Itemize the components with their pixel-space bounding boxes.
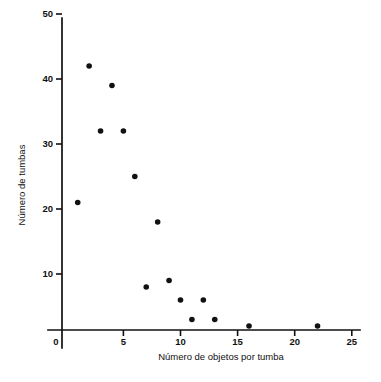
data-point — [98, 128, 104, 134]
data-point — [143, 284, 149, 290]
y-axis: 1020304050 — [42, 8, 62, 348]
data-point — [189, 317, 195, 323]
x-axis: 0510152025 — [48, 330, 360, 347]
x-tick-label: 25 — [347, 336, 358, 347]
data-point — [121, 128, 127, 134]
y-tick-label: 20 — [42, 203, 53, 214]
data-point — [178, 297, 184, 303]
data-point — [212, 317, 218, 323]
y-tick-label: 30 — [42, 138, 53, 149]
data-point — [75, 200, 81, 206]
data-point — [132, 174, 138, 180]
x-tick-label: 15 — [232, 336, 243, 347]
x-tick-label: 20 — [289, 336, 300, 347]
y-tick-label: 50 — [42, 8, 53, 19]
y-tick-label: 10 — [42, 268, 53, 279]
x-axis-title: Número de objetos por tumba — [158, 351, 284, 362]
x-tick-label: 10 — [175, 336, 186, 347]
plot-canvas: 1020304050 0510152025 Número de objetos … — [0, 0, 381, 382]
y-tick-label: 40 — [42, 73, 53, 84]
data-point — [155, 219, 161, 225]
y-axis-title: Número de tumbas — [16, 144, 27, 225]
data-points-layer — [75, 63, 320, 329]
data-point — [246, 323, 252, 329]
x-tick-label: 5 — [121, 336, 127, 347]
data-point — [315, 323, 321, 329]
data-point — [86, 63, 92, 69]
data-point — [109, 83, 115, 89]
data-point — [166, 278, 172, 284]
scatter-plot-figure: 1020304050 0510152025 Número de objetos … — [0, 0, 381, 382]
data-point — [201, 297, 207, 303]
x-tick-label: 0 — [53, 336, 58, 347]
